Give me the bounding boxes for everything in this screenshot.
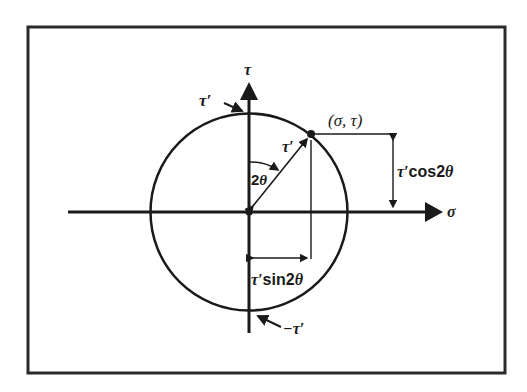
- sigma-axis-arrow-icon: [425, 202, 443, 222]
- sigma-axis-label: σ: [447, 203, 456, 220]
- top-intercept-label: τ′: [199, 91, 211, 110]
- mohr-circle-diagram: τ σ τ′ −τ′ τ′ 2θ (σ, τ) τ′cos2θ τ′sin2θ: [0, 0, 527, 392]
- sin-tau-glyph: τ′: [251, 271, 263, 288]
- tau-axis-label: τ: [244, 61, 252, 78]
- cos-theta-glyph: θ: [445, 163, 454, 180]
- cos-projection-label: τ′cos2θ: [397, 163, 454, 180]
- sin-projection-label: τ′sin2θ: [251, 271, 304, 288]
- point-label: (σ, τ): [328, 111, 363, 130]
- center-point: [246, 209, 253, 216]
- bottom-intercept-pointer: [258, 316, 281, 327]
- theta-glyph: θ: [259, 172, 267, 188]
- angle-label: 2θ: [251, 171, 267, 188]
- sin-theta-glyph: θ: [295, 271, 304, 288]
- angle-arc: [249, 162, 278, 170]
- radius-label: τ′: [282, 138, 294, 155]
- bottom-intercept-label: −τ′: [283, 320, 304, 337]
- top-intercept-pointer: [224, 103, 242, 111]
- cos-tau-glyph: τ′: [397, 163, 409, 180]
- tau-axis-arrow-icon: [240, 82, 258, 100]
